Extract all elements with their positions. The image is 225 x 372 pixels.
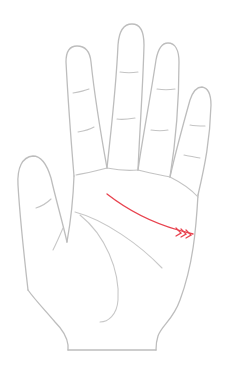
ring-crease-upper bbox=[157, 89, 175, 90]
thumb-crease bbox=[36, 199, 51, 208]
middle-base-line bbox=[107, 168, 138, 170]
thumb-outline bbox=[18, 156, 67, 290]
heart-line-highlight bbox=[107, 194, 193, 238]
palm-left-edge bbox=[28, 290, 68, 350]
head-line bbox=[75, 212, 162, 268]
pinky-crease-upper bbox=[190, 125, 205, 126]
hand-illustration bbox=[0, 0, 225, 372]
index-finger-outline bbox=[66, 46, 107, 176]
pinky-base-line bbox=[170, 177, 198, 197]
hand-outline bbox=[18, 24, 211, 350]
middle-finger-outline bbox=[107, 24, 144, 170]
index-base-line bbox=[76, 168, 107, 175]
index-crease-upper bbox=[73, 89, 89, 93]
life-line bbox=[80, 215, 118, 322]
palm-diagram bbox=[0, 0, 225, 372]
middle-crease-lower bbox=[117, 118, 135, 119]
ring-base-line bbox=[138, 170, 170, 177]
middle-crease-upper bbox=[120, 72, 138, 73]
ring-finger-outline bbox=[138, 43, 179, 177]
ring-crease-lower bbox=[151, 130, 168, 131]
pinky-finger-outline bbox=[170, 87, 211, 195]
thumb-web-line bbox=[53, 228, 63, 250]
heart-line bbox=[107, 194, 193, 234]
thumb-inner-edge bbox=[67, 176, 74, 242]
pinky-crease-lower bbox=[184, 155, 200, 158]
index-crease-lower bbox=[78, 127, 94, 132]
heart-line-branch-1 bbox=[176, 228, 181, 236]
palm-right-edge bbox=[156, 195, 198, 350]
